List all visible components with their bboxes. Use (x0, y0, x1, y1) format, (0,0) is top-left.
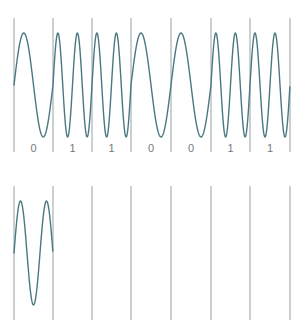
fsk-bit-label-row: 0110011 (0, 139, 308, 157)
psk-wave-path (14, 201, 53, 305)
waveform-figure: 0110011 0110011 (0, 0, 308, 333)
bit-label: 1 (102, 139, 122, 157)
bit-label: 0 (141, 139, 161, 157)
fsk-wave-path (14, 33, 290, 137)
bit-label: 1 (260, 139, 280, 157)
psk-waveform-svg (0, 167, 308, 333)
bit-label: 1 (221, 139, 241, 157)
bit-label: 0 (24, 139, 44, 157)
bit-label: 0 (181, 139, 201, 157)
psk-waveform-panel: 0110011 (0, 167, 308, 333)
fsk-gridlines (14, 18, 290, 152)
bit-label: 1 (63, 139, 83, 157)
fsk-waveform-panel: 0110011 (0, 0, 308, 167)
psk-gridlines (14, 186, 290, 320)
